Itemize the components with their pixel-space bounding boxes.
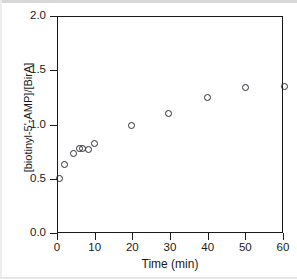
y-axis-tick (50, 70, 57, 71)
x-axis-tick (170, 233, 171, 240)
y-axis-tick-label: 0.0 (16, 227, 46, 239)
y-axis-tick-label: 2.0 (16, 10, 46, 22)
data-point-marker (91, 140, 98, 147)
x-axis-tick-label: 0 (42, 242, 72, 254)
chart-figure: 0.00.51.01.52.0 0102030405060 Time (min)… (0, 0, 297, 279)
data-point-marker (281, 83, 288, 90)
y-axis-tick (50, 16, 57, 17)
data-point-marker (61, 161, 68, 168)
y-axis-tick (50, 233, 57, 234)
y-axis-label: [biotinyl-5'-AMP]/[BirA] (23, 28, 34, 208)
data-point-marker (204, 94, 211, 101)
data-point-marker (242, 84, 249, 91)
x-axis-tick-label: 20 (117, 242, 147, 254)
scan-edge-left (0, 0, 2, 279)
data-point-marker (165, 110, 172, 117)
x-axis-tick (208, 233, 209, 240)
x-axis-tick (283, 233, 284, 240)
data-point-marker (56, 175, 63, 182)
x-axis-tick (57, 233, 58, 240)
x-axis-tick-label: 50 (230, 242, 260, 254)
plot-area (57, 16, 283, 233)
y-axis-tick (50, 125, 57, 126)
x-axis-tick (95, 233, 96, 240)
scan-edge-top (0, 0, 297, 3)
data-point-marker (70, 150, 77, 157)
x-axis-tick-label: 60 (268, 242, 297, 254)
data-point-marker (128, 122, 135, 129)
x-axis-label: Time (min) (57, 258, 283, 270)
x-axis-tick (132, 233, 133, 240)
x-axis-tick-label: 10 (80, 242, 110, 254)
x-axis-tick (245, 233, 246, 240)
x-axis-tick-label: 40 (193, 242, 223, 254)
x-axis-tick-label: 30 (155, 242, 185, 254)
data-point-marker (85, 146, 92, 153)
